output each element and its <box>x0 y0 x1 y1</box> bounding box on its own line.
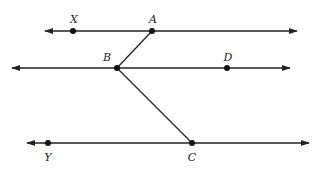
point-X <box>70 28 76 34</box>
label-D: D <box>223 51 233 64</box>
label-C: C <box>188 151 197 164</box>
label-X: X <box>69 13 79 26</box>
label-B: B <box>102 51 111 64</box>
point-B <box>114 65 120 71</box>
segment-BC <box>117 68 192 143</box>
point-A <box>149 28 155 34</box>
point-C <box>189 140 195 146</box>
point-Y <box>45 140 51 146</box>
label-Y: Y <box>44 151 53 164</box>
geometry-diagram: X A B D Y C <box>0 0 317 171</box>
segment-AB <box>117 31 152 68</box>
point-D <box>224 65 230 71</box>
label-A: A <box>148 13 157 26</box>
